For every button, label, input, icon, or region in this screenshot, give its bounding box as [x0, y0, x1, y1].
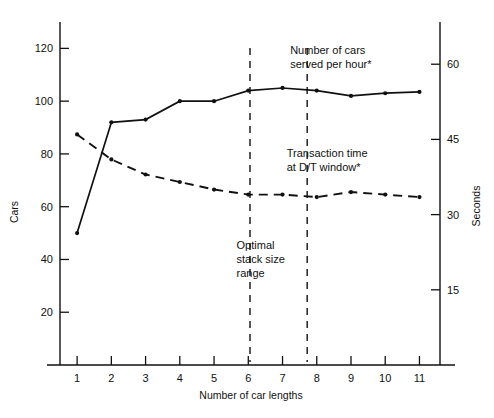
data-point	[315, 89, 319, 93]
data-point	[178, 180, 182, 184]
data-point	[246, 192, 250, 196]
chart-figure: 20406080100120 15304560 1234567891011 Nu…	[0, 0, 494, 418]
data-point	[109, 120, 113, 124]
data-point	[143, 118, 147, 122]
data-point	[349, 94, 353, 98]
y-tick-label-left: 40	[41, 253, 53, 265]
y-axis-right-ticks: 15304560	[431, 58, 459, 296]
data-point	[417, 90, 421, 94]
data-point	[280, 192, 284, 196]
x-tick-label: 3	[143, 372, 149, 384]
y-tick-label-left: 100	[35, 95, 53, 107]
x-tick-label: 5	[211, 372, 217, 384]
x-tick-label: 8	[314, 372, 320, 384]
x-tick-label: 1	[74, 372, 80, 384]
x-axis-title: Number of car lengths	[199, 389, 302, 401]
y-axis-right-title: Seconds	[470, 186, 482, 227]
y-tick-label-left: 120	[35, 42, 53, 54]
series-2-label: Transaction timeat D/T window*	[287, 147, 368, 173]
line-chart-canvas: 20406080100120 15304560 1234567891011 Nu…	[0, 0, 494, 418]
series-line-1	[77, 88, 419, 233]
y-tick-label-right: 45	[447, 133, 459, 145]
x-tick-label: 11	[414, 372, 425, 384]
x-tick-label: 2	[108, 372, 114, 384]
data-point	[75, 231, 79, 235]
y-tick-label-right: 60	[447, 58, 459, 70]
y-tick-label-left: 80	[41, 148, 53, 160]
y-tick-label-right: 30	[447, 209, 459, 221]
data-point	[417, 195, 421, 199]
data-point	[246, 89, 250, 93]
data-point	[349, 190, 353, 194]
data-point	[212, 99, 216, 103]
y-tick-label-left: 20	[41, 306, 53, 318]
x-tick-label: 9	[348, 372, 354, 384]
chart-annotations: Number of carsserved per hour*Transactio…	[237, 44, 373, 279]
series-line-2	[77, 134, 419, 197]
y-axis-left-title: Cars	[8, 201, 20, 223]
axis-frame	[47, 22, 455, 365]
data-point	[212, 187, 216, 191]
optimal-range-label: Optimalstack sizerange	[237, 239, 285, 279]
data-point	[383, 192, 387, 196]
x-tick-label: 6	[245, 372, 251, 384]
x-tick-label: 10	[379, 372, 391, 384]
data-point	[109, 157, 113, 161]
optimal-range-vlines	[250, 48, 307, 362]
data-series-group	[75, 86, 422, 235]
data-point	[143, 172, 147, 176]
series-1-label: Number of carsserved per hour*	[290, 44, 372, 70]
data-point	[75, 132, 79, 136]
data-point	[280, 86, 284, 90]
data-point	[178, 99, 182, 103]
y-tick-label-left: 60	[41, 201, 53, 213]
y-axis-left-ticks: 20406080100120	[35, 42, 69, 318]
data-point	[315, 195, 319, 199]
data-point	[383, 91, 387, 95]
y-tick-label-right: 15	[447, 284, 459, 296]
x-tick-label: 7	[279, 372, 285, 384]
x-tick-label: 4	[177, 372, 183, 384]
